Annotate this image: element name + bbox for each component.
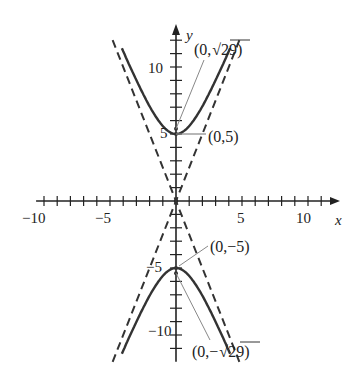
leader-focus-top [176, 60, 204, 129]
x-axis-arrow-icon [330, 197, 340, 205]
vertex-bottom-label: (0,−5) [210, 238, 250, 256]
labels: x y −10 −5 5 10 10 5 −5 −10 (0,√29) (0,5… [22, 27, 342, 361]
vertex-top-label: (0,5) [208, 128, 239, 146]
x-tick-label-10: 10 [296, 210, 311, 226]
x-tick-label-neg5: −5 [95, 210, 111, 226]
y-tick-label-neg10: −10 [148, 323, 171, 339]
x-tick-label-neg10: −10 [22, 210, 45, 226]
y-tick-label-neg5: −5 [146, 259, 162, 275]
leader-focus-bottom [176, 273, 210, 340]
svg-text:(0,−√29): (0,−√29) [192, 343, 249, 361]
y-axis-label: y [184, 27, 193, 43]
hyperbola-graph: x y −10 −5 5 10 10 5 −5 −10 (0,√29) (0,5… [0, 0, 361, 388]
focus-bottom-label: (0,−√29) [192, 342, 260, 361]
leader-vertex-bottom [179, 246, 208, 266]
vertex-bottom-point [174, 266, 178, 270]
svg-text:(0,√29): (0,√29) [194, 41, 242, 59]
y-tick-label-10: 10 [148, 60, 163, 76]
axes [36, 24, 340, 362]
x-axis-label: x [334, 212, 342, 228]
focus-top-label: (0,√29) [194, 40, 250, 59]
y-axis-arrow-icon [172, 24, 180, 35]
y-tick-label-5: 5 [160, 125, 168, 141]
x-tick-label-5: 5 [237, 210, 245, 226]
